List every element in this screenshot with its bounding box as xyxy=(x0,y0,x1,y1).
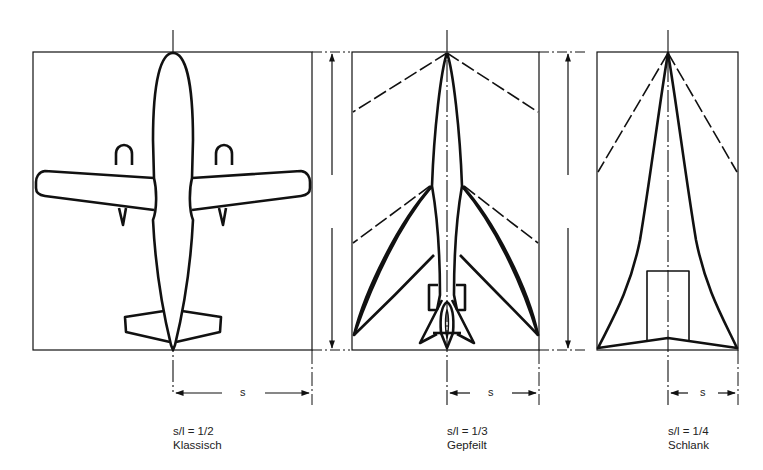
span-label-klassisch: s xyxy=(240,386,246,398)
panel-schlank xyxy=(597,30,738,405)
span-label-schlank: s xyxy=(700,386,706,398)
configuration-name: Klassisch xyxy=(173,438,222,452)
span-label-gepfeilt: s xyxy=(488,386,494,398)
panel-klassisch xyxy=(33,30,350,405)
caption-schlank: s/l = 1/4 Schlank xyxy=(668,424,709,452)
ratio-label: s/l = 1/2 xyxy=(173,424,222,438)
ratio-label: s/l = 1/3 xyxy=(447,424,488,438)
caption-gepfeilt: s/l = 1/3 Gepfeilt xyxy=(447,424,488,452)
reference-lines xyxy=(353,53,538,243)
configuration-name: Schlank xyxy=(668,438,709,452)
aircraft-klassisch xyxy=(36,53,310,350)
panel-gepfeilt xyxy=(352,30,585,405)
aircraft-gepfeilt xyxy=(354,53,538,348)
ratio-label: s/l = 1/4 xyxy=(668,424,709,438)
configuration-name: Gepfeilt xyxy=(447,438,488,452)
planform-comparison-diagram xyxy=(0,0,763,470)
caption-klassisch: s/l = 1/2 Klassisch xyxy=(173,424,222,452)
